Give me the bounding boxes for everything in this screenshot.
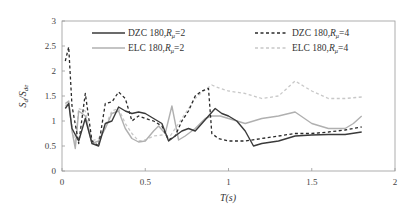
svg-text:ELC 180,Rμ=4: ELC 180,Rμ=4 <box>292 43 348 54</box>
x-tick-label: 1.5 <box>306 177 318 187</box>
y-tick-label: 0.5 <box>45 141 57 151</box>
y-tick-label: 2.5 <box>45 41 57 51</box>
series-line-2 <box>65 101 361 149</box>
legend-item-elc-r2: ELC 180,Rμ=2 <box>92 43 184 54</box>
svg-text:DZC 180,Rμ=4: DZC 180,Rμ=4 <box>292 28 349 39</box>
svg-text:DZC 180,Rμ=2: DZC 180,Rμ=2 <box>128 28 185 39</box>
series-line-1 <box>65 47 361 146</box>
series-layer <box>65 47 361 149</box>
legend-item-dzc-r2: DZC 180,Rμ=2 <box>92 28 185 39</box>
chart: 00.511.522.53 00.511.52 Sd/Sde T(s) DZC … <box>0 0 410 216</box>
legend-item-elc-r4: ELC 180,Rμ=4 <box>255 43 348 54</box>
y-tick-label: 2 <box>52 66 57 76</box>
x-tick-label: 1 <box>226 177 231 187</box>
y-tick-label: 3 <box>52 16 57 26</box>
series-line-3 <box>65 81 361 144</box>
x-tick-label: 2 <box>393 177 398 187</box>
x-tick-label: 0 <box>60 177 65 187</box>
y-tick-label: 1 <box>52 116 57 126</box>
x-tick-label: 0.5 <box>140 177 152 187</box>
x-axis-label: T(s) <box>220 192 237 204</box>
y-axis-label: Sd/Sde <box>17 85 30 108</box>
y-tick-label: 1.5 <box>45 91 57 101</box>
y-tick-label: 0 <box>52 166 57 176</box>
svg-text:ELC 180,Rμ=2: ELC 180,Rμ=2 <box>128 43 184 54</box>
legend: DZC 180,Rμ=2 ELC 180,Rμ=2 DZC 180,Rμ=4 E… <box>92 28 349 54</box>
legend-item-dzc-r4: DZC 180,Rμ=4 <box>255 28 349 39</box>
